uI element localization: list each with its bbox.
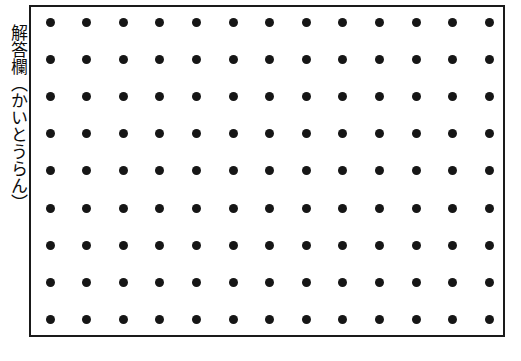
grid-dot xyxy=(119,204,128,213)
grid-dot xyxy=(302,166,311,175)
grid-dot xyxy=(265,241,274,250)
grid-dot xyxy=(192,315,201,324)
grid-dot xyxy=(229,315,238,324)
grid-dot xyxy=(119,315,128,324)
grid-dot xyxy=(375,204,384,213)
grid-dot xyxy=(46,315,55,324)
grid-dot xyxy=(485,129,494,138)
grid-dot xyxy=(119,55,128,64)
grid-dot xyxy=(46,129,55,138)
grid-dot xyxy=(338,55,347,64)
grid-dot xyxy=(375,278,384,287)
grid-dot xyxy=(46,278,55,287)
grid-dot xyxy=(82,315,91,324)
grid-dot xyxy=(229,278,238,287)
grid-dot xyxy=(375,315,384,324)
grid-dot xyxy=(82,18,91,27)
grid-dot xyxy=(192,55,201,64)
grid-dot xyxy=(302,315,311,324)
grid-dot xyxy=(412,278,421,287)
grid-dot xyxy=(338,18,347,27)
grid-dot xyxy=(302,129,311,138)
grid-dot xyxy=(338,278,347,287)
grid-dot xyxy=(412,204,421,213)
grid-dot xyxy=(155,204,164,213)
grid-dot xyxy=(485,241,494,250)
grid-dot xyxy=(229,166,238,175)
grid-dot xyxy=(412,166,421,175)
grid-dot xyxy=(265,129,274,138)
grid-dot xyxy=(155,92,164,101)
grid-dot xyxy=(82,204,91,213)
grid-dot xyxy=(302,204,311,213)
grid-dot xyxy=(192,129,201,138)
grid-dot xyxy=(155,241,164,250)
grid-dot xyxy=(375,92,384,101)
grid-dot xyxy=(119,241,128,250)
grid-dot xyxy=(265,18,274,27)
grid-dot xyxy=(192,166,201,175)
worksheet-page: 解答欄（かいとうらん） xyxy=(0,0,521,361)
grid-dot xyxy=(119,166,128,175)
grid-dot xyxy=(265,55,274,64)
grid-dot xyxy=(265,315,274,324)
grid-dot xyxy=(448,315,457,324)
grid-dot xyxy=(265,166,274,175)
grid-dot xyxy=(412,315,421,324)
grid-dot xyxy=(155,18,164,27)
grid-dot xyxy=(302,92,311,101)
answer-field-caption: 解答欄（かいとうらん） xyxy=(2,2,28,232)
grid-dot xyxy=(82,129,91,138)
grid-dot xyxy=(155,55,164,64)
grid-dot xyxy=(375,166,384,175)
grid-dot xyxy=(338,166,347,175)
grid-dot xyxy=(412,55,421,64)
grid-dot xyxy=(485,315,494,324)
grid-dot xyxy=(192,204,201,213)
grid-dot xyxy=(375,55,384,64)
grid-dot xyxy=(302,55,311,64)
grid-dot xyxy=(448,55,457,64)
grid-dot xyxy=(412,129,421,138)
grid-dot xyxy=(448,204,457,213)
grid-dot xyxy=(302,18,311,27)
grid-dot xyxy=(448,278,457,287)
grid-dot xyxy=(265,92,274,101)
grid-dot xyxy=(46,204,55,213)
grid-dot xyxy=(375,241,384,250)
grid-dot xyxy=(119,129,128,138)
grid-dot xyxy=(229,18,238,27)
grid-dot xyxy=(412,241,421,250)
grid-dot xyxy=(338,204,347,213)
grid-dot xyxy=(375,129,384,138)
grid-dot xyxy=(82,92,91,101)
grid-dot xyxy=(192,278,201,287)
grid-dot xyxy=(412,92,421,101)
grid-dot xyxy=(46,92,55,101)
grid-dot xyxy=(119,278,128,287)
grid-dot xyxy=(82,241,91,250)
grid-dot xyxy=(46,241,55,250)
grid-dot xyxy=(448,166,457,175)
grid-dot xyxy=(192,18,201,27)
grid-dot xyxy=(155,166,164,175)
grid-dot xyxy=(229,241,238,250)
grid-dot xyxy=(338,241,347,250)
grid-dot xyxy=(46,166,55,175)
grid-dot xyxy=(192,92,201,101)
grid-dot xyxy=(265,278,274,287)
grid-dot xyxy=(229,55,238,64)
grid-dot xyxy=(82,278,91,287)
grid-dot xyxy=(119,92,128,101)
grid-dot xyxy=(155,129,164,138)
grid-dot xyxy=(448,18,457,27)
grid-dot xyxy=(229,92,238,101)
answer-field-box[interactable] xyxy=(29,5,505,337)
grid-dot xyxy=(155,315,164,324)
grid-dot xyxy=(485,55,494,64)
grid-dot xyxy=(338,315,347,324)
grid-dot xyxy=(302,241,311,250)
grid-dot xyxy=(375,18,384,27)
grid-dot xyxy=(82,166,91,175)
dot-grid xyxy=(31,7,503,335)
